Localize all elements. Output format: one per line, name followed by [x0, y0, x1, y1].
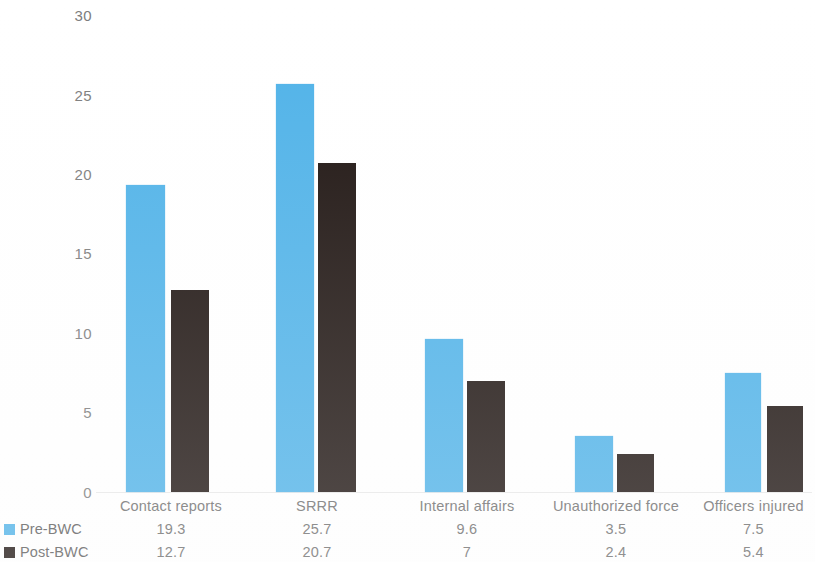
legend-label-post-bwc: Post-BWC: [20, 544, 88, 560]
table-row-post-bwc: Post-BWC 12.7 20.7 7 2.4 5.4: [0, 541, 815, 562]
legend-label-pre-bwc: Pre-BWC: [20, 521, 82, 537]
table-cell-post-officers-injured: 5.4: [692, 541, 815, 562]
table-cell-pre-internal-affairs: 9.6: [392, 518, 542, 540]
table-cell-category-contact-reports: Contact reports: [96, 495, 246, 517]
legend-item-post-bwc: Post-BWC: [4, 541, 96, 562]
table-cell-pre-contact-reports: 19.3: [96, 518, 246, 540]
table-cell-pre-unauthorized-force: 3.5: [540, 518, 692, 540]
legend-swatch-post-bwc-icon: [4, 547, 15, 558]
bars-layer: [0, 0, 815, 497]
table-row-pre-bwc: Pre-BWC 19.3 25.7 9.6 3.5 7.5: [0, 518, 815, 541]
table-cell-category-internal-affairs: Internal affairs: [392, 495, 542, 517]
table-cell-category-unauthorized-force: Unauthorized force: [540, 495, 692, 517]
table-row-categories: Contact reports SRRR Internal affairs Un…: [0, 495, 815, 518]
table-cell-pre-officers-injured: 7.5: [692, 518, 815, 540]
data-table: Contact reports SRRR Internal affairs Un…: [0, 493, 815, 562]
bar-pre-internal-affairs: [425, 339, 463, 492]
legend-item-pre-bwc: Pre-BWC: [4, 518, 96, 540]
bar-post-unauthorized-force: [617, 454, 654, 492]
bar-post-internal-affairs: [467, 381, 505, 492]
bar-pre-srrr: [276, 84, 314, 492]
plot-area: 30 25 20 15 10 5 0: [0, 0, 815, 497]
table-cell-post-internal-affairs: 7: [392, 541, 542, 562]
table-cell-pre-srrr: 25.7: [248, 518, 386, 540]
bar-pre-unauthorized-force: [575, 436, 613, 492]
bar-post-officers-injured: [767, 406, 803, 492]
bar-post-srrr: [318, 163, 356, 492]
table-cell-category-officers-injured: Officers injured: [692, 495, 815, 517]
table-cell-post-srrr: 20.7: [248, 541, 386, 562]
bar-pre-officers-injured: [725, 373, 761, 492]
legend-swatch-pre-bwc-icon: [4, 524, 15, 535]
table-cell-category-srrr: SRRR: [248, 495, 386, 517]
bar-post-contact-reports: [171, 290, 209, 492]
table-cell-post-unauthorized-force: 2.4: [540, 541, 692, 562]
grouped-bar-chart: 30 25 20 15 10 5 0: [0, 0, 815, 562]
bar-pre-contact-reports: [126, 185, 165, 492]
table-cell-post-contact-reports: 12.7: [96, 541, 246, 562]
